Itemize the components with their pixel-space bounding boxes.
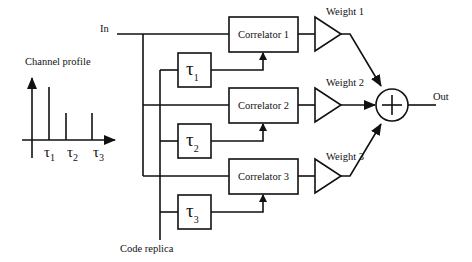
weight-2-amplifier — [315, 88, 341, 122]
correlator-1-label: Correlator 1 — [238, 29, 289, 40]
weight-3-amplifier — [315, 159, 341, 193]
output-label: Out — [433, 91, 449, 102]
weight-2-label: Weight 2 — [326, 77, 364, 88]
weight-1-label: Weight 1 — [326, 6, 364, 17]
profile-tick-3: τ3 — [93, 144, 104, 163]
code-replica-label: Code replica — [120, 243, 174, 254]
delay-3-to-correlator-3 — [211, 195, 263, 212]
profile-tick-1: τ1 — [44, 144, 55, 163]
channel-profile: Channel profile τ1 τ2 τ3 — [22, 56, 115, 163]
weight-1-amplifier — [315, 17, 341, 51]
channel-profile-title: Channel profile — [25, 56, 91, 67]
summer: Out — [376, 89, 449, 121]
delay-1-to-correlator-1 — [211, 53, 263, 70]
finger-1: τ1 Correlator 1 Weight 1 — [178, 6, 381, 87]
finger-2: τ2 Correlator 2 Weight 2 — [178, 77, 375, 158]
correlator-2-label: Correlator 2 — [238, 100, 289, 111]
delay-2-to-correlator-2 — [211, 124, 263, 141]
rake-receiver-diagram: Channel profile τ1 τ2 τ3 In Code replica… — [0, 0, 472, 262]
weight-3-to-summer — [341, 124, 381, 176]
input-label: In — [100, 23, 109, 34]
profile-tick-2: τ2 — [67, 144, 78, 163]
correlator-3-label: Correlator 3 — [238, 171, 289, 182]
weight-3-label: Weight 3 — [326, 151, 364, 162]
